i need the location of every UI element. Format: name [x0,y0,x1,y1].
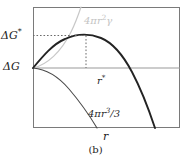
r-star-superscript: * [102,73,106,82]
y-axis-label-delta-g: ΔG [3,61,20,72]
x-axis-title: r [103,131,108,142]
surface-energy-curve-label: 4πr2γ [84,14,112,26]
y-axis-label-delta-g-star: ΔG* [1,28,22,41]
figure-caption: (b) [0,144,191,155]
x-axis-label-r-star: r* [97,74,105,86]
nucleation-free-energy-figure: ΔG* ΔG r* 4πr2γ 4πr3/3 r (b) [0,0,191,160]
delta-g-star-superscript: * [18,27,22,36]
volume-energy-curve-label: 4πr3/3 [88,107,120,119]
